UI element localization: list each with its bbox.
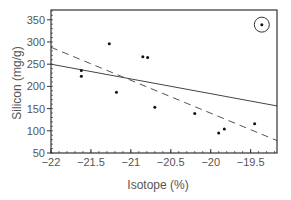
data-point [80,69,83,72]
data-point [260,23,263,26]
y-tick-label: 350 [27,14,45,26]
y-tick-label: 250 [27,58,45,70]
x-tick-label: −21 [122,156,141,168]
y-tick-label: 300 [27,36,45,48]
x-tick-label: −20.5 [157,156,185,168]
x-tick-label: −21.5 [77,156,105,168]
y-tick-label: 200 [27,80,45,92]
y-axis-label: Silicon (mg/g) [10,46,24,119]
data-point [193,112,196,115]
data-point [146,56,149,59]
y-tick-label: 50 [33,147,45,159]
data-point [141,55,144,58]
y-axis-ticks: 50100150200250300350 [27,11,53,159]
data-point [217,132,220,135]
scatter-chart: −22−21.5−21−20.5−20−19.5 501001502002503… [0,0,291,200]
x-tick-label: −20 [201,156,220,168]
data-point [115,91,118,94]
data-point [223,128,226,131]
data-points [80,23,263,134]
regression-lines [51,47,277,140]
solid-regression-line [51,64,277,106]
x-axis-ticks: −22−21.5−21−20.5−20−19.5 [42,149,275,168]
y-tick-label: 150 [27,103,45,115]
dashed-regression-line [51,47,277,140]
data-point [80,75,83,78]
x-axis-label: Isotope (%) [127,178,188,192]
data-point [253,122,256,125]
x-tick-label: −19.5 [237,156,265,168]
plot-frame [51,10,277,153]
data-point [153,106,156,109]
y-tick-label: 100 [27,125,45,137]
data-point [108,42,111,45]
